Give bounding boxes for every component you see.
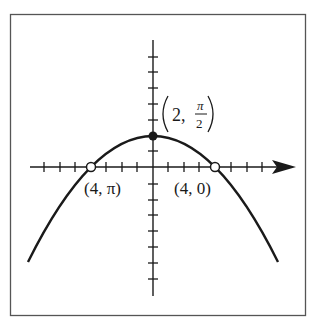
vertex-label: 2, π 2 bbox=[163, 96, 213, 132]
right-intercept-label: (4, 0) bbox=[174, 179, 211, 198]
right-paren bbox=[208, 96, 213, 132]
left-intercept-point bbox=[87, 163, 96, 172]
y-axis bbox=[148, 40, 158, 296]
figure-frame bbox=[11, 15, 306, 316]
vertex-r-text: 2, bbox=[172, 105, 186, 125]
right-intercept-point bbox=[211, 163, 220, 172]
vertex-angle-numerator: π bbox=[197, 98, 204, 113]
x-axis bbox=[30, 160, 296, 174]
vertex-angle-denominator: 2 bbox=[196, 116, 203, 131]
polar-graph-figure: 2, π 2 (4, π) (4, 0) bbox=[0, 0, 310, 325]
left-intercept-label: (4, π) bbox=[84, 179, 121, 198]
vertex-point bbox=[149, 132, 158, 141]
left-paren bbox=[163, 96, 168, 132]
